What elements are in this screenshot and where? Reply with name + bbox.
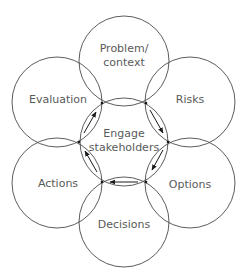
node-label-line2: context	[100, 56, 149, 70]
center-label-line1: Engage	[89, 127, 159, 141]
node-evaluation: Evaluation	[29, 93, 87, 107]
center-label-line2: stakeholders	[89, 141, 159, 155]
node-risks: Risks	[176, 93, 205, 107]
node-label-line1: Problem/	[100, 42, 149, 56]
node-decisions: Decisions	[98, 218, 151, 232]
node-actions: Actions	[38, 177, 78, 191]
node-problem-context: Problem/ context	[100, 42, 149, 70]
node-options: Options	[169, 178, 211, 192]
center-engage-stakeholders: Engage stakeholders	[89, 127, 159, 155]
